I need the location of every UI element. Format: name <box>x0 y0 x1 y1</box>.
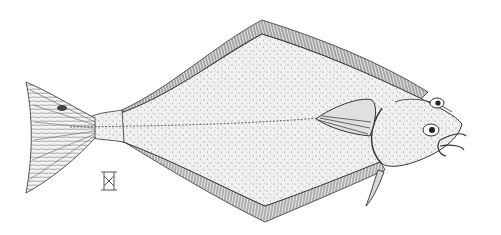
illustration-canvas: Halibut (flatfish) pen-and-ink stipple i… <box>0 0 501 235</box>
caudal-fin <box>26 82 95 193</box>
artist-monogram <box>101 172 117 190</box>
upper-eye <box>430 98 444 108</box>
halibut-illustration <box>0 0 501 235</box>
lower-eye <box>423 124 439 136</box>
tail-dark-spot <box>57 105 67 111</box>
